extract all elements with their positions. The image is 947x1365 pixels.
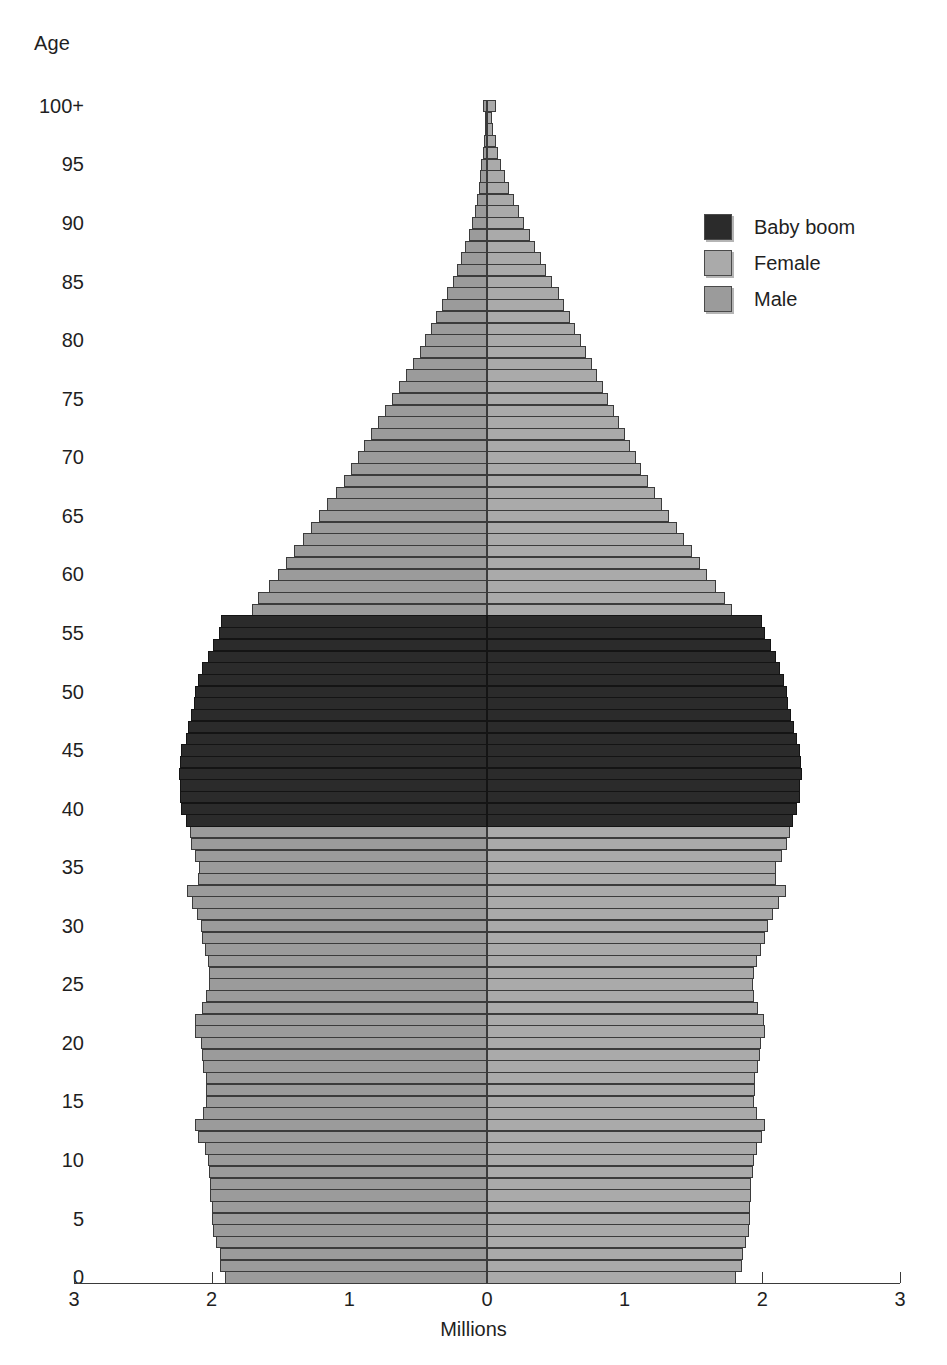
- bar-male-age-38: [190, 826, 487, 838]
- bar-female-age-72: [487, 428, 625, 440]
- bar-male-age-70: [358, 451, 487, 463]
- bar-male-age-63: [303, 533, 487, 545]
- bar-male-age-0: [225, 1271, 487, 1283]
- bar-female-age-33: [487, 885, 786, 897]
- y-axis-tick-95: 95: [0, 153, 84, 176]
- bar-female-age-20: [487, 1037, 761, 1049]
- bar-male-age-73: [378, 416, 487, 428]
- bar-female-age-60: [487, 569, 707, 581]
- bar-female-age-36: [487, 850, 782, 862]
- bar-female-age-45: [487, 744, 800, 756]
- bar-female-age-87: [487, 252, 541, 264]
- bar-female-age-15: [487, 1096, 754, 1108]
- bar-male-age-62: [294, 545, 487, 557]
- bar-male-age-94: [480, 170, 487, 182]
- bar-male-age-82: [436, 311, 487, 323]
- bar-female-age-68: [487, 475, 648, 487]
- bar-female-age-42: [487, 779, 800, 791]
- y-axis-tick-40: 40: [0, 797, 84, 820]
- bar-male-age-65: [319, 510, 487, 522]
- legend-label-male: Male: [754, 288, 797, 311]
- bar-male-age-74: [385, 405, 487, 417]
- y-axis-tick-65: 65: [0, 504, 84, 527]
- y-axis-tick-10: 10: [0, 1149, 84, 1172]
- bar-male-age-51: [198, 674, 487, 686]
- bar-male-age-30: [201, 920, 487, 932]
- bar-male-age-90: [472, 217, 487, 229]
- bar-male-age-77: [406, 369, 487, 381]
- bar-female-age-14: [487, 1107, 757, 1119]
- legend-item-baby_boom[interactable]: Baby boom: [704, 209, 855, 245]
- bar-female-age-98: [487, 123, 493, 135]
- x-axis-tick-mark-6: [900, 1272, 901, 1283]
- bar-male-age-27: [208, 955, 487, 967]
- bar-female-age-46: [487, 733, 797, 745]
- bar-female-age-65: [487, 510, 669, 522]
- bar-female-age-89: [487, 229, 530, 241]
- bar-male-age-13: [195, 1119, 487, 1131]
- bar-female-age-64: [487, 522, 677, 534]
- bar-female-age-86: [487, 264, 546, 276]
- bar-female-age-37: [487, 838, 787, 850]
- bar-female-age-10: [487, 1154, 754, 1166]
- bar-male-age-11: [205, 1142, 487, 1154]
- bar-female-age-76: [487, 381, 603, 393]
- bar-male-age-32: [192, 896, 487, 908]
- bar-male-age-15: [206, 1096, 487, 1108]
- y-axis-tick-75: 75: [0, 387, 84, 410]
- bar-male-age-17: [206, 1072, 487, 1084]
- bar-female-age-25: [487, 978, 753, 990]
- bar-female-age-80: [487, 334, 581, 346]
- bar-male-age-56: [221, 615, 487, 627]
- bar-male-age-54: [213, 639, 487, 651]
- bar-female-age-48: [487, 709, 791, 721]
- bar-male-age-80: [425, 334, 487, 346]
- bar-female-age-13: [487, 1119, 765, 1131]
- bar-female-age-97: [487, 135, 496, 147]
- bar-female-age-44: [487, 756, 801, 768]
- y-axis-tick-90: 90: [0, 211, 84, 234]
- legend-item-female[interactable]: Female: [704, 245, 855, 281]
- bar-female-age-43: [487, 768, 802, 780]
- bar-male-age-72: [371, 428, 487, 440]
- bar-male-age-67: [336, 487, 487, 499]
- legend-item-male[interactable]: Male: [704, 281, 855, 317]
- bar-female-age-5: [487, 1213, 750, 1225]
- bar-male-age-92: [477, 194, 487, 206]
- y-axis-tick-35: 35: [0, 856, 84, 879]
- legend-swatch-female-icon: [704, 250, 732, 276]
- bar-female-age-70: [487, 451, 636, 463]
- bar-male-age-59: [269, 580, 487, 592]
- bar-female-age-56: [487, 615, 762, 627]
- bar-male-age-69: [351, 463, 487, 475]
- bar-female-age-21: [487, 1025, 765, 1037]
- bar-female-age-27: [487, 955, 757, 967]
- bar-female-age-91: [487, 205, 519, 217]
- bar-female-age-17: [487, 1072, 755, 1084]
- bar-female-age-12: [487, 1131, 762, 1143]
- bar-female-age-28: [487, 943, 761, 955]
- x-axis-tick-mark-5: [762, 1272, 763, 1283]
- bar-female-age-62: [487, 545, 692, 557]
- bar-female-age-92: [487, 194, 514, 206]
- bar-male-age-40: [181, 803, 487, 815]
- population-pyramid-chart: Age 051015202530354045505560657075808590…: [0, 0, 947, 1365]
- bar-male-age-24: [206, 990, 487, 1002]
- bar-female-age-49: [487, 697, 788, 709]
- bar-female-age-23: [487, 1002, 758, 1014]
- bar-female-age-90: [487, 217, 524, 229]
- legend-swatch-baby_boom-icon: [704, 214, 732, 240]
- bar-female-age-83: [487, 299, 564, 311]
- y-axis-tick-layer: 0510152025303540455055606570758085909510…: [0, 0, 84, 1365]
- bar-male-age-1: [220, 1260, 487, 1272]
- bar-female-age-57: [487, 604, 732, 616]
- bar-male-age-49: [194, 697, 487, 709]
- legend-label-female: Female: [754, 252, 821, 275]
- bar-female-age-63: [487, 533, 684, 545]
- y-axis-tick-70: 70: [0, 446, 84, 469]
- bar-male-age-2: [220, 1248, 487, 1260]
- bar-male-age-87: [461, 252, 487, 264]
- bar-male-age-36: [195, 850, 487, 862]
- bar-female-age-9: [487, 1166, 753, 1178]
- bar-male-age-89: [469, 229, 487, 241]
